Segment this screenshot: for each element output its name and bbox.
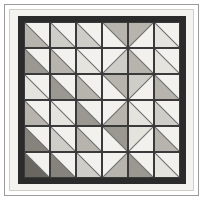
quilt-block (102, 152, 128, 178)
quilt-block (76, 126, 102, 152)
quilt-block (154, 48, 180, 74)
quilt-block (128, 152, 154, 178)
quilt-block (24, 48, 50, 74)
quilt-block (50, 100, 76, 126)
quilt-block (50, 22, 76, 48)
quilt-block (24, 74, 50, 100)
quilt-block (50, 48, 76, 74)
quilt-block (128, 100, 154, 126)
artwork-canvas (0, 0, 204, 201)
quilt-block (128, 126, 154, 152)
quilt-block (154, 126, 180, 152)
quilt-block (76, 22, 102, 48)
quilt-block (24, 126, 50, 152)
quilt-block (128, 74, 154, 100)
quilt-block (24, 100, 50, 126)
quilt-block (24, 152, 50, 178)
quilt-block (24, 22, 50, 48)
quilt-block (76, 152, 102, 178)
quilt-block (102, 100, 128, 126)
quilt-block (154, 152, 180, 178)
quilt-block (76, 74, 102, 100)
quilt-block (102, 126, 128, 152)
quilt-block (50, 152, 76, 178)
quilt-block (154, 74, 180, 100)
quilt-block (102, 74, 128, 100)
quilt-block (102, 22, 128, 48)
quilt-block (50, 74, 76, 100)
quilt-block (102, 48, 128, 74)
quilt-block (76, 100, 102, 126)
quilt-block (128, 22, 154, 48)
quilt-block (128, 48, 154, 74)
quilt-grid (24, 22, 180, 178)
quilt-block (76, 48, 102, 74)
quilt-block (154, 100, 180, 126)
quilt-block (50, 126, 76, 152)
quilt-block (154, 22, 180, 48)
